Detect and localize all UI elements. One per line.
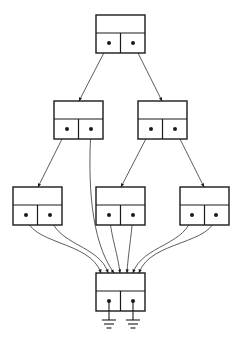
pointer-dot	[131, 213, 135, 217]
node-mid-left	[54, 101, 103, 139]
pointer-dot	[214, 213, 218, 217]
node-low-right	[180, 187, 229, 225]
pointer-dot	[107, 213, 111, 217]
node-low-left	[13, 187, 62, 225]
node-root	[96, 15, 145, 53]
pointer-dot	[48, 213, 52, 217]
pointer-dot	[89, 127, 93, 131]
pointer-dot	[24, 213, 28, 217]
pointer-dot	[149, 127, 153, 131]
pointer-dot	[173, 127, 177, 131]
edges	[26, 43, 216, 273]
node-low-center	[96, 187, 145, 225]
pointer-dag-diagram	[0, 0, 241, 343]
diagram-svg	[0, 0, 241, 343]
pointer-dot	[131, 41, 135, 45]
pointer-dot	[190, 213, 194, 217]
node-mid-right	[138, 101, 187, 139]
node-terminal	[96, 273, 145, 311]
pointer-dot	[107, 41, 111, 45]
pointer-dot	[65, 127, 69, 131]
